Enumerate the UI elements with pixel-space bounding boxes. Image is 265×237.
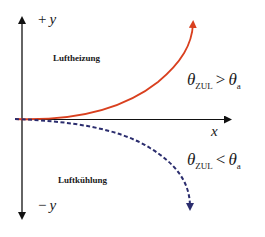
cooling-region-label: Luftkühlung [58, 175, 107, 185]
cooling-curve [15, 119, 190, 207]
cooling-condition: θZUL<θa [187, 150, 241, 171]
sub-a: a [237, 161, 241, 171]
y-negative-sign: − [38, 197, 46, 213]
heating-curve [15, 24, 193, 119]
greater-than-op: > [216, 70, 226, 89]
x-axis-label: x [211, 123, 218, 140]
y-positive-sign: + [38, 11, 46, 27]
heating-region-label: Luftheizung [53, 53, 100, 63]
y-negative-var: y [49, 197, 56, 213]
sub-zul: ZUL [195, 161, 213, 171]
y-positive-label: +y [38, 11, 56, 28]
heating-condition: θZUL>θa [187, 70, 241, 91]
theta-a: θ [228, 150, 236, 169]
theta-a: θ [228, 70, 236, 89]
sub-a: a [237, 81, 241, 91]
less-than-op: < [216, 150, 226, 169]
sub-zul: ZUL [195, 81, 213, 91]
y-positive-var: y [49, 11, 56, 27]
y-negative-label: −y [38, 197, 56, 214]
